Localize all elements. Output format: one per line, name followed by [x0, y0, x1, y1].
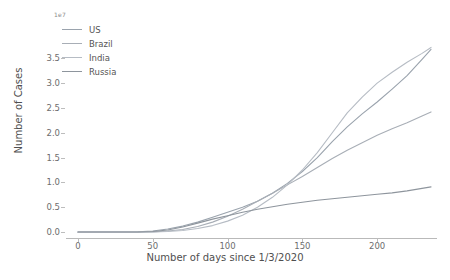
plot-area: [66, 36, 437, 238]
y-tick-label: 0.5: [5, 202, 60, 212]
x-tick-mark: [377, 238, 378, 242]
legend-item-india[interactable]: India: [62, 52, 116, 63]
x-tick-mark: [153, 238, 154, 242]
y-axis-tick-labels: 0.00.51.01.52.02.53.03.5: [0, 0, 60, 280]
legend-label: India: [89, 53, 110, 63]
legend-label: Brazil: [89, 39, 113, 49]
x-tick-mark: [78, 238, 79, 242]
x-tick-label: 150: [294, 241, 310, 251]
x-tick-mark: [302, 238, 303, 242]
y-tick-mark: [61, 232, 65, 233]
x-tick-label: 0: [75, 241, 80, 251]
legend-item-us[interactable]: US: [62, 24, 116, 35]
line-chart-figure: 1e7 0.00.51.01.52.02.53.03.5 USBrazilInd…: [0, 0, 450, 280]
legend-label: Russia: [89, 67, 116, 77]
y-tick-mark: [61, 58, 65, 59]
series-line-us: [78, 49, 431, 232]
series-line-russia: [78, 187, 431, 232]
x-axis-spine: [66, 238, 437, 239]
series-line-india: [78, 47, 431, 232]
legend-label: US: [89, 25, 101, 35]
series-lines: [66, 36, 437, 238]
legend-line-icon: [62, 71, 82, 72]
y-axis-label: Number of Cases: [13, 31, 24, 191]
y-tick-mark: [61, 158, 65, 159]
legend-item-brazil[interactable]: Brazil: [62, 38, 116, 49]
chart-legend: USBrazilIndiaRussia: [62, 24, 116, 77]
y-tick-mark: [61, 182, 65, 183]
legend-line-icon: [62, 43, 82, 44]
legend-line-icon: [62, 57, 82, 58]
x-tick-label: 200: [369, 241, 385, 251]
x-axis-label: Number of days since 1/3/2020: [0, 252, 450, 263]
series-line-brazil: [78, 112, 431, 232]
x-tick-label: 50: [147, 241, 158, 251]
y-tick-mark: [61, 207, 65, 208]
legend-item-russia[interactable]: Russia: [62, 66, 116, 77]
y-tick-label: 0.0: [5, 227, 60, 237]
y-tick-mark: [61, 133, 65, 134]
y-tick-mark: [61, 108, 65, 109]
legend-line-icon: [62, 29, 82, 30]
x-tick-mark: [228, 238, 229, 242]
x-tick-label: 100: [219, 241, 235, 251]
y-tick-mark: [61, 83, 65, 84]
